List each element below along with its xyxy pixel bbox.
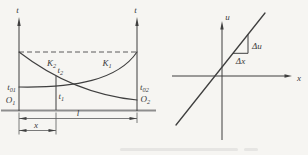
dimension-x-left-arrow-icon — [19, 129, 27, 132]
left-t-axis-label: t — [16, 5, 19, 15]
dimension-total-label: l — [77, 108, 80, 118]
t02-label: t02 — [140, 82, 150, 93]
x-axis-arrow-icon — [285, 74, 293, 77]
linear-characteristic-diagram: u x Δx Δu — [172, 12, 301, 140]
left-t-axis-arrow-icon — [17, 17, 20, 26]
dimension-total-left-arrow-icon — [19, 117, 27, 120]
t1-label: t1 — [59, 91, 65, 102]
linear-characteristic-line — [176, 13, 265, 125]
caption-remnant-smudge — [120, 148, 238, 151]
t2-label: t2 — [58, 65, 65, 76]
curve-k1-label: K1 — [101, 58, 111, 69]
dimension-x-right-arrow-icon — [49, 129, 57, 132]
curve-k1 — [19, 52, 137, 87]
dimension-x-label: x — [33, 120, 38, 130]
curve-k2 — [19, 52, 137, 100]
x-axis-label: x — [296, 73, 301, 83]
u-axis-arrow-icon — [220, 21, 223, 30]
figure-canvas: t t K2 K1 t2 t1 t01 O1 t02 O2 l — [0, 0, 308, 155]
t01-label: t01 — [7, 82, 16, 93]
o1-origin-label: O1 — [6, 95, 16, 106]
u-axis-label: u — [225, 12, 230, 22]
temperature-characteristics-diagram: t t K2 K1 t2 t1 t01 O1 t02 O2 l — [1, 5, 156, 135]
o2-origin-label: O2 — [141, 94, 152, 105]
right-t-axis-label: t — [134, 5, 137, 15]
two-panel-diagram: t t K2 K1 t2 t1 t01 O1 t02 O2 l — [0, 0, 308, 155]
delta-x-label: Δx — [235, 56, 245, 66]
right-t-axis-arrow-icon — [135, 17, 138, 26]
curve-k2-label: K2 — [46, 58, 57, 69]
dimension-total-right-arrow-icon — [130, 117, 138, 120]
caption-remnant-smudge-2 — [244, 148, 258, 151]
delta-u-label: Δu — [251, 41, 262, 51]
